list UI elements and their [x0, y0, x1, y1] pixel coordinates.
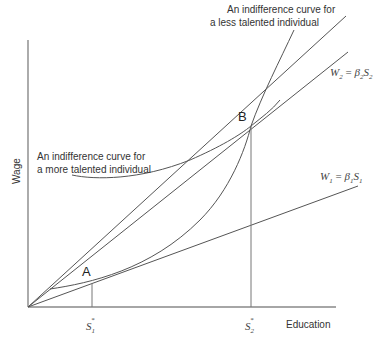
- diagram-canvas: A B An indifference curve for a less tal…: [0, 0, 384, 342]
- s1-star-label: S1*: [86, 316, 95, 335]
- more-talented-label-line1: An indifference curve for: [37, 151, 146, 162]
- s2-star-label: S2*: [245, 316, 255, 335]
- point-b-label: B: [238, 109, 247, 124]
- education-wage-diagram: A B An indifference curve for a less tal…: [0, 0, 384, 342]
- w1-line: [28, 186, 358, 307]
- y-axis-label: Wage: [11, 158, 22, 184]
- w2-line: [28, 52, 348, 307]
- less-talented-label-line1: An indifference curve for: [227, 4, 336, 15]
- w1-equation: W1 = β1S1: [320, 170, 362, 185]
- x-axis-label: Education: [286, 319, 330, 330]
- more-talented-label-line2: a more talented individual: [37, 164, 151, 175]
- less-talented-label-line2: a less talented individual: [210, 17, 319, 28]
- w2-equation: W2 = β2S2: [330, 66, 373, 81]
- point-a-label: A: [82, 264, 91, 279]
